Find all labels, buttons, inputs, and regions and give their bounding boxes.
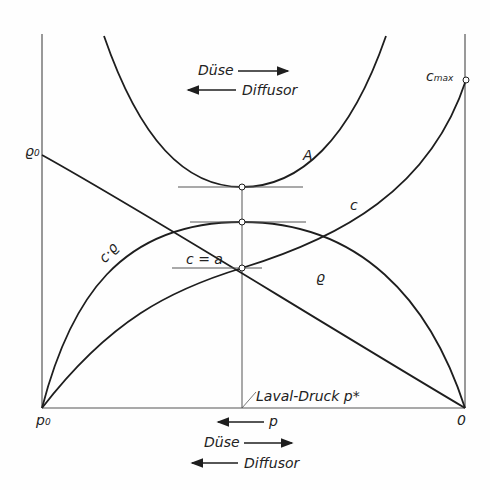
mass-flux-maximum-marker [239, 219, 245, 225]
velocity-curve-label: c [350, 198, 358, 212]
laval-pressure-label: Laval-Druck p* [256, 389, 360, 403]
top-diffuser-label: Diffusor [242, 83, 297, 97]
zero-pressure-label: 0 [457, 413, 466, 427]
density-curve-label: ϱ [316, 270, 325, 284]
laval-nozzle-diagram: Düse Diffusor ϱ0 cmax p0 0 A c c·ϱ ϱ c =… [0, 0, 490, 490]
diagram-canvas [0, 0, 490, 490]
bottom-diffuser-label: Diffusor [244, 456, 299, 470]
p0-label: p0 [36, 413, 51, 427]
top-nozzle-label: Düse [198, 63, 234, 77]
area-curve [104, 36, 386, 187]
density-curve [42, 155, 465, 408]
bottom-nozzle-label: Düse [204, 435, 240, 449]
sonic-point-marker [239, 265, 245, 271]
rho0-label: ϱ0 [25, 144, 40, 158]
sonic-condition-label: c = a [186, 252, 223, 266]
area-curve-label: A [303, 148, 313, 162]
area-minimum-marker [239, 184, 245, 190]
pressure-direction-label: p [269, 414, 278, 428]
c-max-marker [463, 77, 469, 83]
laval-label-leader [242, 392, 256, 408]
c-max-label: cmax [426, 69, 453, 83]
